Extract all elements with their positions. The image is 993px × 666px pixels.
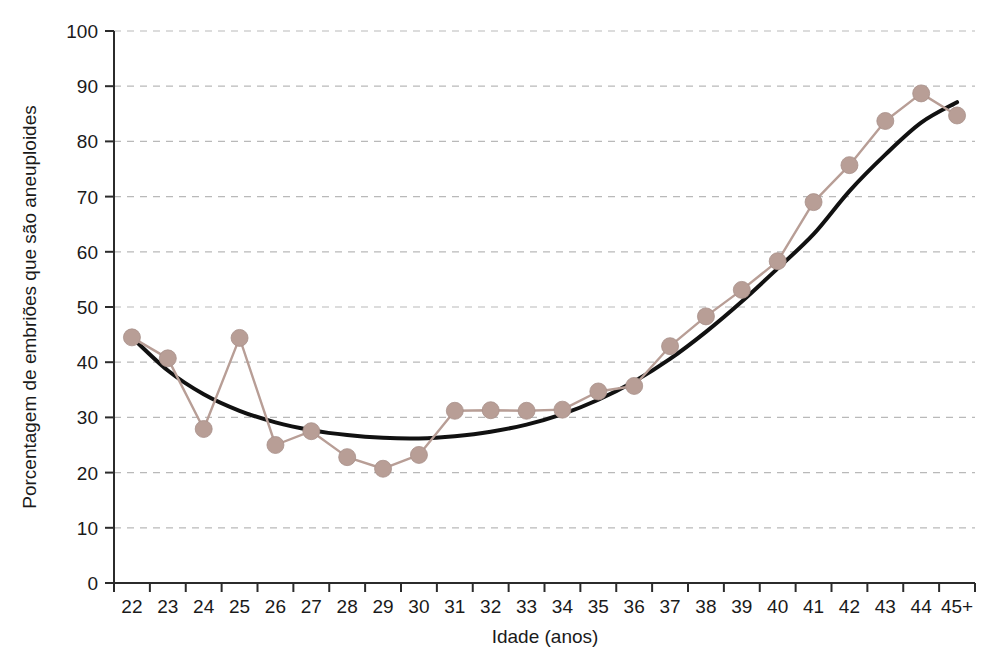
data-point-marker	[805, 194, 822, 211]
data-point-marker	[626, 377, 643, 394]
aneuploidy-by-age-chart: 1009080706050403020100 22232425262728293…	[0, 0, 993, 666]
x-tick-label: 41	[803, 596, 824, 617]
x-tick-label: 34	[552, 596, 574, 617]
data-point-marker	[410, 446, 427, 463]
y-tick-label: 80	[77, 131, 98, 152]
y-tick-label: 70	[77, 187, 98, 208]
x-tick-label: 24	[193, 596, 215, 617]
data-point-marker	[662, 338, 679, 355]
x-tick-label: 43	[875, 596, 896, 617]
x-tick-label: 25	[229, 596, 250, 617]
x-tick-label: 23	[157, 596, 178, 617]
x-tick-label: 22	[121, 596, 142, 617]
data-point-marker	[123, 329, 140, 346]
x-tick-label: 27	[301, 596, 322, 617]
x-tick-label: 39	[731, 596, 752, 617]
y-tick-label: 20	[77, 463, 98, 484]
x-tick-label: 36	[624, 596, 645, 617]
y-axis-title: Porcentagem de embriões que são aneuploi…	[19, 105, 40, 509]
x-axis-title: Idade (anos)	[492, 626, 599, 647]
x-tick-label: 29	[372, 596, 393, 617]
x-tick-label: 45+	[941, 596, 973, 617]
data-point-marker	[159, 350, 176, 367]
x-tick-label: 28	[337, 596, 358, 617]
data-point-marker	[949, 107, 966, 124]
x-tick-label: 44	[911, 596, 933, 617]
x-tick-label: 26	[265, 596, 286, 617]
x-tick-label: 31	[444, 596, 465, 617]
x-tick-label: 30	[408, 596, 429, 617]
data-point-marker	[697, 308, 714, 325]
data-point-marker	[267, 437, 284, 454]
x-tick-label: 38	[695, 596, 716, 617]
chart-canvas: 1009080706050403020100 22232425262728293…	[0, 0, 993, 666]
data-point-marker	[518, 402, 535, 419]
data-point-marker	[446, 402, 463, 419]
chart-background	[0, 0, 993, 666]
data-point-marker	[590, 383, 607, 400]
data-point-marker	[733, 281, 750, 298]
data-point-marker	[841, 157, 858, 174]
x-tick-label: 42	[839, 596, 860, 617]
data-point-marker	[375, 460, 392, 477]
y-tick-label: 10	[77, 518, 98, 539]
x-tick-label: 37	[659, 596, 680, 617]
data-point-marker	[769, 253, 786, 270]
data-point-marker	[554, 401, 571, 418]
data-point-marker	[339, 449, 356, 466]
x-tick-label: 32	[480, 596, 501, 617]
y-tick-label: 40	[77, 352, 98, 373]
data-point-marker	[303, 423, 320, 440]
x-tick-label: 33	[516, 596, 537, 617]
y-tick-label: 50	[77, 297, 98, 318]
data-point-marker	[195, 420, 212, 437]
data-point-marker	[482, 402, 499, 419]
x-tick-label: 40	[767, 596, 788, 617]
y-tick-label: 0	[87, 573, 98, 594]
y-tick-label: 30	[77, 407, 98, 428]
y-tick-label: 60	[77, 242, 98, 263]
data-point-marker	[913, 85, 930, 102]
data-point-marker	[231, 329, 248, 346]
x-tick-label: 35	[588, 596, 609, 617]
y-tick-label: 100	[66, 21, 98, 42]
data-point-marker	[877, 112, 894, 129]
y-tick-label: 90	[77, 76, 98, 97]
